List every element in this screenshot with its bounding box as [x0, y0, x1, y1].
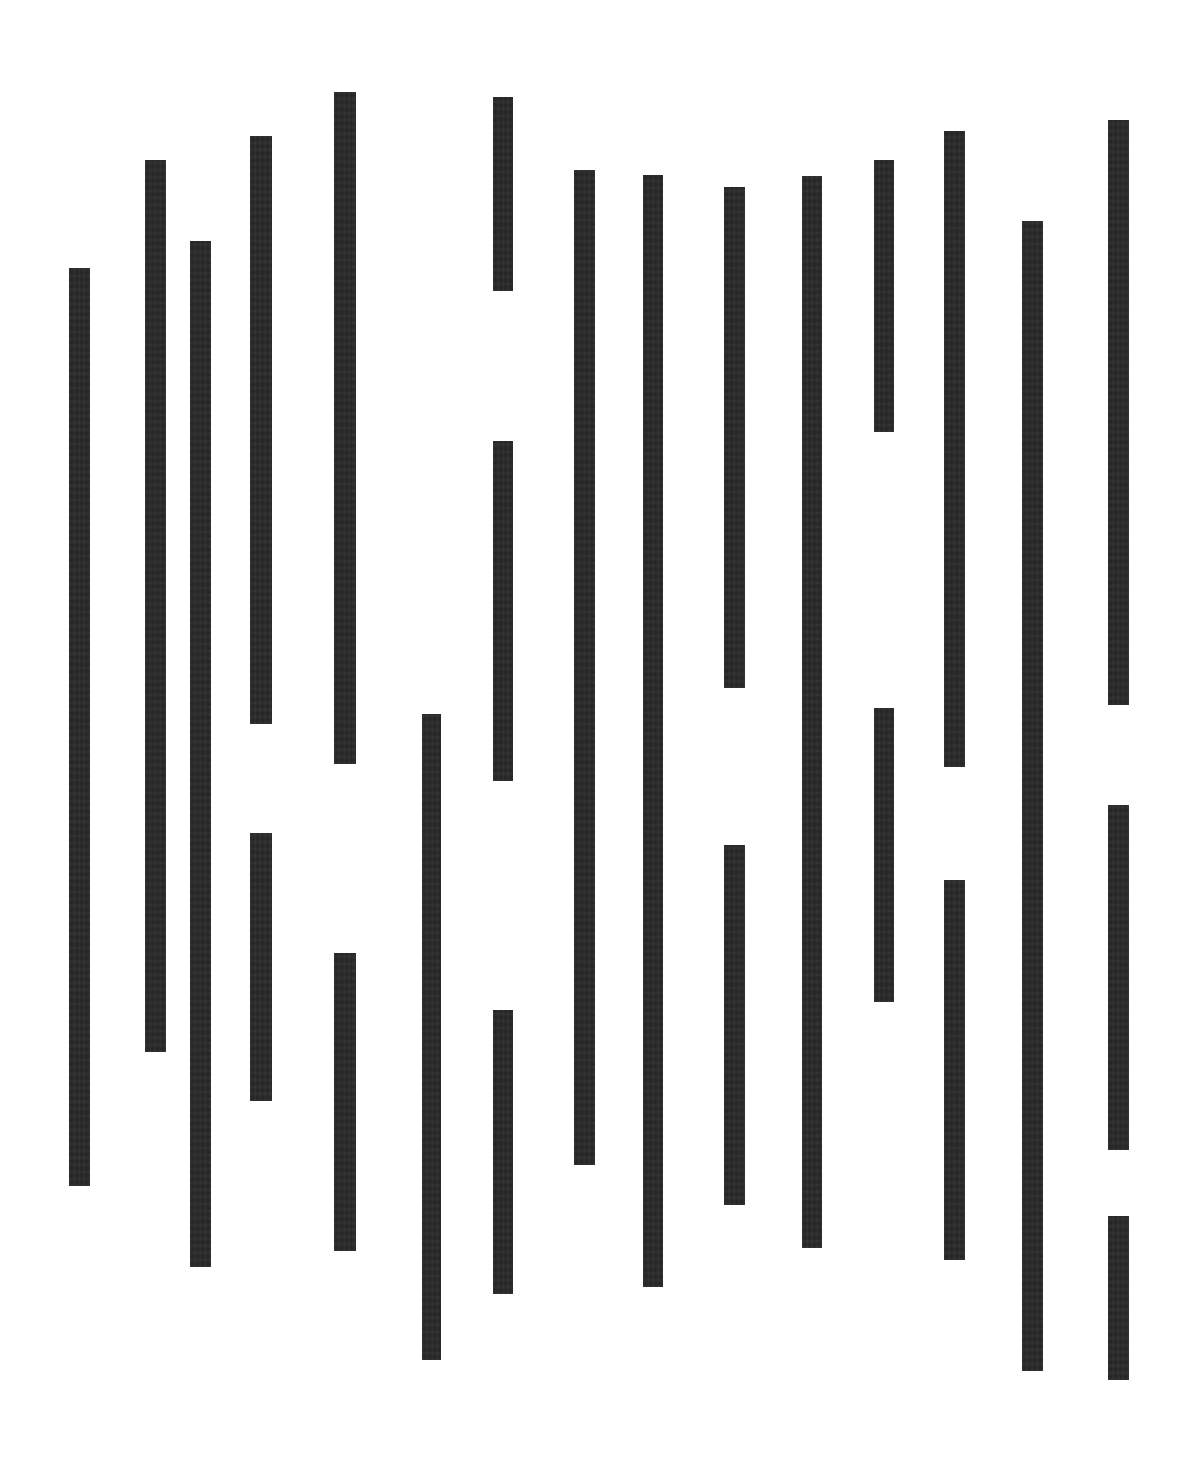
bar-column-7-segment-2 — [493, 441, 513, 781]
bar-column-4-segment-2 — [250, 833, 272, 1101]
bar-column-5-segment-2 — [334, 953, 356, 1251]
bar-column-14-segment-1 — [1022, 221, 1043, 1371]
bar-column-13-segment-1 — [944, 131, 965, 767]
bar-column-10-segment-1 — [724, 187, 745, 688]
bar-column-15-segment-2 — [1108, 805, 1129, 1150]
bar-column-7-segment-1 — [493, 97, 513, 291]
bar-column-3-segment-1 — [190, 241, 211, 1267]
bar-column-11-segment-1 — [802, 176, 822, 1248]
artwork-canvas — [0, 0, 1187, 1461]
bar-column-15-segment-3 — [1108, 1216, 1129, 1380]
bar-column-15-segment-1 — [1108, 120, 1129, 705]
bar-column-2-segment-1 — [145, 160, 166, 1052]
bar-column-9-segment-1 — [643, 175, 663, 1287]
bar-column-13-segment-2 — [944, 880, 965, 1260]
bar-column-6-segment-1 — [422, 714, 441, 1360]
bar-column-1-segment-1 — [69, 268, 90, 1186]
bar-column-7-segment-3 — [493, 1010, 513, 1294]
bar-column-5-segment-1 — [334, 92, 356, 764]
bar-column-10-segment-2 — [724, 845, 745, 1205]
bar-column-8-segment-1 — [574, 170, 595, 1165]
bar-column-4-segment-1 — [250, 136, 272, 724]
bar-column-12-segment-1 — [874, 160, 894, 432]
bar-column-12-segment-2 — [874, 708, 894, 1002]
